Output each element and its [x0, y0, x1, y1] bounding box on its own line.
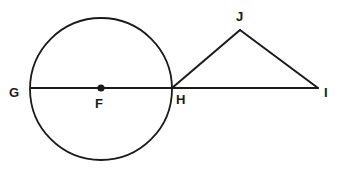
segment-h-to-j — [172, 30, 240, 88]
vertex-label-i: I — [324, 86, 328, 99]
vertex-label-j: J — [236, 10, 243, 23]
vertex-label-f: F — [95, 97, 103, 110]
segment-j-to-i — [240, 30, 318, 88]
vertex-label-g: G — [9, 86, 19, 99]
vertex-label-h: H — [176, 93, 185, 106]
geometry-canvas — [0, 0, 342, 172]
geometry-figure: G F H J I — [0, 0, 342, 172]
center-point-dot-f — [97, 84, 104, 91]
